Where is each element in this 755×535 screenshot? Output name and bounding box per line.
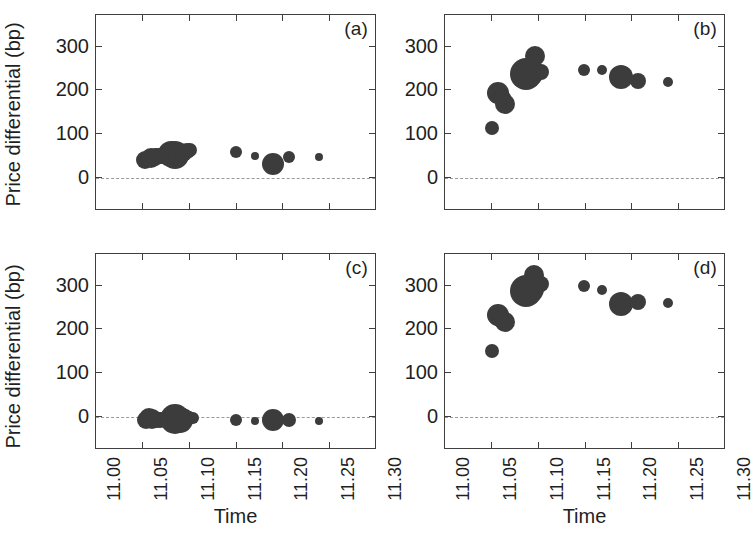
y-tick-label: 0 [78, 166, 89, 189]
y-tick-label: 200 [56, 317, 89, 340]
data-point [485, 344, 499, 358]
y-axis-title-bottom: Price differential (bp) [2, 252, 25, 462]
panel-d: (d) [444, 253, 725, 449]
x-axis-tick [329, 203, 330, 210]
x-axis-title-left: Time [95, 505, 376, 528]
x-axis-tick [142, 14, 143, 21]
x-axis-tick [538, 203, 539, 210]
y-axis-tick [369, 177, 376, 178]
y-axis-tick [444, 285, 451, 286]
y-axis-tick [95, 89, 102, 90]
y-tick-label: 200 [405, 78, 438, 101]
y-axis-tick [95, 177, 102, 178]
x-axis-tick [585, 203, 586, 210]
y-axis-tick [444, 89, 451, 90]
data-point [630, 73, 646, 89]
data-point [230, 414, 242, 426]
data-point [495, 312, 515, 332]
x-axis-tick [538, 14, 539, 21]
x-axis-tick [282, 203, 283, 210]
x-axis-tick [631, 253, 632, 260]
data-point [533, 64, 549, 80]
y-axis-tick [369, 328, 376, 329]
y-axis-tick [369, 285, 376, 286]
y-tick-labels-panel-b: 0100200300 [392, 14, 438, 210]
panel-a-tag: (a) [344, 18, 368, 40]
x-axis-tick [678, 14, 679, 21]
y-tick-labels-panel-d: 0100200300 [392, 253, 438, 449]
x-axis-tick [631, 203, 632, 210]
x-axis-tick [678, 203, 679, 210]
panel-b-frame [444, 14, 725, 210]
panel-a: (a) [95, 14, 376, 210]
panel-a-zero-line [96, 178, 375, 179]
x-axis-tick [189, 253, 190, 260]
data-point [495, 94, 515, 114]
y-tick-label: 200 [405, 317, 438, 340]
x-axis-tick [236, 14, 237, 21]
y-tick-labels-panel-c: 0100200300 [43, 253, 89, 449]
y-axis-tick [369, 46, 376, 47]
panel-d-zero-line [445, 417, 724, 418]
x-axis-tick [678, 442, 679, 449]
x-axis-tick [631, 442, 632, 449]
x-axis-tick [585, 14, 586, 21]
data-point [262, 409, 284, 431]
y-axis-tick [95, 416, 102, 417]
data-point [315, 153, 323, 161]
y-tick-label: 0 [427, 405, 438, 428]
y-axis-tick [718, 46, 725, 47]
y-axis-tick [95, 46, 102, 47]
data-point [578, 64, 590, 76]
y-axis-tick [444, 416, 451, 417]
data-point [597, 65, 607, 75]
x-tick-label: 11.10 [547, 457, 568, 501]
x-axis-tick [585, 253, 586, 260]
x-axis-tick [329, 253, 330, 260]
data-point [485, 121, 499, 135]
y-axis-tick [369, 416, 376, 417]
y-tick-label: 300 [56, 34, 89, 57]
x-axis-tick [491, 253, 492, 260]
x-axis-tick [491, 203, 492, 210]
y-axis-tick [444, 46, 451, 47]
x-tick-label: 11.00 [453, 457, 474, 501]
data-point [578, 280, 590, 292]
data-point [262, 153, 284, 175]
data-point [525, 46, 545, 66]
x-axis-tick [491, 14, 492, 21]
y-axis-tick [718, 133, 725, 134]
data-point [183, 143, 197, 157]
panel-b-zero-line [445, 178, 724, 179]
x-axis-tick [631, 14, 632, 21]
panel-c-frame [95, 253, 376, 449]
x-tick-label: 11.15 [594, 457, 615, 501]
x-axis-tick [189, 442, 190, 449]
x-tick-label: 11.15 [245, 457, 266, 501]
y-tick-labels-panel-a: 0100200300 [43, 14, 89, 210]
x-axis-tick [282, 442, 283, 449]
y-axis-tick [718, 416, 725, 417]
data-point [282, 413, 296, 427]
x-axis-tick [282, 253, 283, 260]
x-axis-tick [282, 14, 283, 21]
x-tick-label: 11.00 [104, 457, 125, 501]
panel-c-tag: (c) [345, 257, 368, 279]
panel-d-tag: (d) [693, 257, 717, 279]
panel-d-frame [444, 253, 725, 449]
data-point [663, 298, 673, 308]
y-axis-tick [718, 372, 725, 373]
data-point [315, 417, 323, 425]
x-axis-tick [585, 442, 586, 449]
y-axis-tick [95, 133, 102, 134]
y-tick-label: 100 [405, 122, 438, 145]
x-axis-tick [678, 253, 679, 260]
y-axis-tick [369, 372, 376, 373]
y-tick-label: 100 [56, 122, 89, 145]
data-point [630, 294, 646, 310]
x-tick-label: 11.05 [151, 457, 172, 501]
data-point [283, 151, 295, 163]
x-tick-label: 11.30 [734, 457, 755, 501]
y-axis-tick [718, 285, 725, 286]
